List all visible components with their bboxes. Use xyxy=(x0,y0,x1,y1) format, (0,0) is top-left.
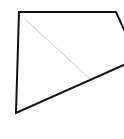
diagram-canvas xyxy=(0,0,124,139)
polygon-outline xyxy=(16,12,124,113)
diagonal-line xyxy=(25,19,90,79)
